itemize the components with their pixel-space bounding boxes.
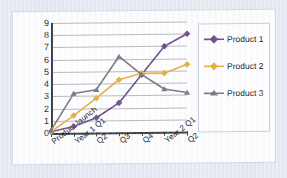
x-tick-label: Q4 xyxy=(141,131,155,145)
legend-marker-diamond-product-2 xyxy=(203,60,225,72)
data-point-marker xyxy=(70,123,77,130)
data-point-marker xyxy=(93,95,100,102)
legend-marker-triangle-product-3 xyxy=(203,87,225,99)
y-axis-labels: 0123456789 xyxy=(33,12,49,152)
series-line-product-3 xyxy=(51,56,187,131)
series-line-product-1 xyxy=(51,34,187,132)
y-tick-label: 5 xyxy=(37,68,49,76)
legend-label-product-3: Product 3 xyxy=(227,87,263,99)
legend-label-product-1: Product 1 xyxy=(227,33,263,45)
x-tick-label: Year 1 Q1 xyxy=(73,116,107,146)
data-point-marker xyxy=(48,128,55,135)
x-tick xyxy=(119,132,120,136)
data-point-marker xyxy=(48,128,55,135)
legend-item-product-3[interactable]: Product 3 xyxy=(203,87,267,100)
y-tick-label: 4 xyxy=(37,80,49,88)
gridline xyxy=(51,46,187,48)
chart-legend: Product 1 Product 2 Product 3 xyxy=(198,23,270,133)
series-line-product-2 xyxy=(51,64,187,131)
x-tick-label: Q2 xyxy=(95,132,109,146)
gridline xyxy=(51,107,187,109)
legend-item-product-1[interactable]: Product 1 xyxy=(203,33,267,46)
x-tick xyxy=(96,132,97,136)
gridline xyxy=(51,34,187,36)
data-point-marker xyxy=(184,30,191,37)
x-tick xyxy=(142,132,143,136)
x-tick xyxy=(187,132,188,136)
data-point-marker xyxy=(161,86,167,91)
data-point-marker xyxy=(138,70,145,77)
chart-card: 0123456789 Product launchYear 1 Q1Q2Q3Q4… xyxy=(13,10,275,165)
x-tick xyxy=(51,133,52,137)
gridline xyxy=(51,58,187,60)
x-tick-label: Year 2 Q1 xyxy=(163,115,197,145)
y-axis-line xyxy=(51,23,53,134)
y-tick-label: 0 xyxy=(37,129,49,137)
y-tick-label: 3 xyxy=(37,92,49,100)
data-point-marker xyxy=(116,76,123,83)
data-point-marker xyxy=(161,43,168,50)
gridline xyxy=(51,70,187,72)
data-point-marker xyxy=(139,72,145,77)
y-tick-label: 9 xyxy=(37,19,49,27)
x-axis-line xyxy=(51,132,188,135)
data-point-marker xyxy=(71,91,77,96)
data-point-marker xyxy=(93,114,100,121)
gridline xyxy=(51,132,187,134)
data-point-marker xyxy=(48,128,54,133)
data-point-marker xyxy=(138,71,145,78)
gridline xyxy=(51,95,187,97)
series-lines xyxy=(51,22,191,135)
y-tick-label: 7 xyxy=(37,43,49,51)
data-point-marker xyxy=(70,112,77,119)
data-point-marker xyxy=(93,87,99,92)
x-tick xyxy=(74,133,75,137)
data-point-marker xyxy=(161,70,168,77)
legend-item-product-2[interactable]: Product 2 xyxy=(203,60,267,73)
gridline xyxy=(51,119,187,121)
y-tick-label: 8 xyxy=(37,31,49,39)
x-tick-label: Q3 xyxy=(118,131,132,145)
data-point-marker xyxy=(184,61,191,68)
legend-marker-diamond-product-1 xyxy=(203,33,225,45)
legend-label-product-2: Product 2 xyxy=(227,60,263,72)
x-tick-label: Q2 xyxy=(186,131,200,145)
x-tick-label: Product launch xyxy=(50,105,99,146)
data-point-marker xyxy=(116,100,123,107)
x-tick xyxy=(164,132,165,136)
data-point-marker xyxy=(184,90,190,95)
chart-inner: 0123456789 Product launchYear 1 Q1Q2Q3Q4… xyxy=(13,10,275,165)
y-tick-label: 1 xyxy=(37,117,49,125)
y-tick-label: 2 xyxy=(37,104,49,112)
gridline xyxy=(51,22,187,24)
plot-area xyxy=(51,22,187,133)
y-tick-label: 6 xyxy=(37,56,49,64)
data-point-marker xyxy=(116,54,122,59)
gridline xyxy=(51,83,187,85)
